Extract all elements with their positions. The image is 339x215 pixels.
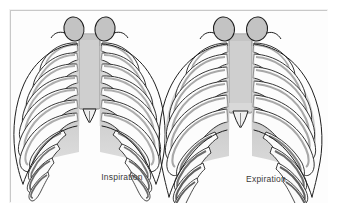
figure-frame: Inspiration Expiration [10,10,327,202]
figure-root: Inspiration Expiration [0,0,339,215]
sternum-expiration [229,34,252,113]
sternum-body-lower-expiration [229,103,252,111]
caption-expiration: Expiration [211,174,321,184]
caption-inspiration: Inspiration [67,172,177,182]
sternum-inspiration [79,34,100,109]
